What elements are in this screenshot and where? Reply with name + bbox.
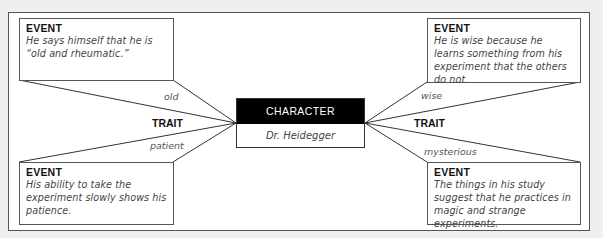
event-box-left-bottom: EVENT His ability to take the experiment… — [19, 162, 174, 225]
event-text: His ability to take the experiment slowl… — [26, 178, 167, 217]
trait-label-left: TRAIT — [152, 117, 183, 129]
trait-value-patient: patient — [150, 140, 184, 151]
character-name: Dr. Heidegger — [237, 124, 364, 148]
event-text: The things in his study suggest that he … — [434, 178, 574, 230]
event-box-right-top: EVENT He is wise because he learns somet… — [427, 18, 581, 83]
event-text: He says himself that he is “old and rheu… — [26, 34, 167, 60]
character-header: CHARACTER — [237, 99, 364, 124]
event-text: He is wise because he learns something f… — [434, 34, 574, 86]
event-title: EVENT — [434, 22, 574, 34]
trait-value-old: old — [164, 91, 178, 102]
event-box-right-bottom: EVENT The things in his study suggest th… — [427, 162, 581, 225]
event-title: EVENT — [26, 22, 167, 34]
event-title: EVENT — [26, 166, 167, 178]
character-box: CHARACTER Dr. Heidegger — [236, 98, 365, 148]
trait-value-wise: wise — [421, 90, 442, 101]
event-box-left-top: EVENT He says himself that he is “old an… — [19, 18, 174, 81]
trait-value-mysterious: mysterious — [424, 146, 477, 157]
trait-label-right: TRAIT — [414, 117, 445, 129]
event-title: EVENT — [434, 166, 574, 178]
